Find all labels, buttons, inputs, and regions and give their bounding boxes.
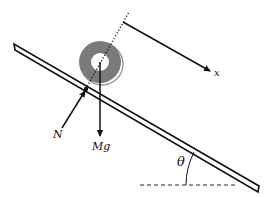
contact-point xyxy=(84,87,88,91)
inclined-plank xyxy=(14,44,259,192)
weight-label: Mg xyxy=(91,140,110,153)
x-axis-label: x xyxy=(214,67,220,78)
normal-force-label: N xyxy=(52,128,63,141)
inclined-plane-diagram: θ x N Mg xyxy=(0,0,273,197)
x-axis-arrow xyxy=(123,22,210,71)
angle-theta-label: θ xyxy=(177,154,185,169)
normal-force-arrow xyxy=(62,91,85,128)
angle-arc xyxy=(186,152,194,185)
